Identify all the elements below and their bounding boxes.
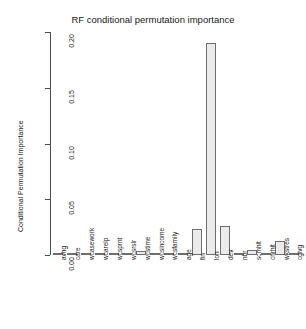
- x-tick-label: wcsrslr: [130, 240, 137, 260]
- x-tick-label: wkstres: [283, 238, 290, 260]
- x-tick-label: wcstime: [144, 237, 151, 260]
- x-tick-label: wcsprnt: [116, 238, 123, 260]
- x-tick-label: dev: [227, 250, 234, 260]
- y-tick-mark: [45, 88, 50, 89]
- x-tick-label: chrhlt: [269, 244, 276, 260]
- bar: [206, 43, 216, 255]
- y-tick-mark: [45, 32, 50, 33]
- x-tick-label: care: [74, 247, 81, 260]
- y-tick-mark: [45, 199, 50, 200]
- x-tick-label: wcsincome: [158, 228, 165, 260]
- y-axis-label: Conditional Permutation Importance: [17, 120, 24, 232]
- x-tick-label: wcasework: [88, 228, 95, 260]
- x-tick-label: fin: [199, 253, 206, 260]
- bar: [192, 229, 202, 255]
- x-tick-label: wcarelp: [102, 238, 109, 260]
- x-tick-label: cgivg: [296, 245, 303, 260]
- x-tick-label: scmhlt: [255, 241, 262, 260]
- bar-series: [51, 32, 301, 255]
- x-tick-label: avhg: [60, 246, 67, 260]
- y-tick-mark: [45, 144, 50, 145]
- chart-canvas: RF conditional permutation importance Co…: [0, 0, 306, 329]
- x-tick-label: lon: [213, 251, 220, 260]
- x-tick-label: wcsfamily: [171, 232, 178, 260]
- x-tick-label: age: [185, 249, 192, 260]
- chart-title: RF conditional permutation importance: [0, 14, 306, 25]
- y-tick-mark: [45, 255, 50, 256]
- x-axis-tick-labels: avhgcarewcaseworkwcarelpwcsprntwcsrslrwc…: [51, 258, 301, 328]
- x-tick-label: nbr: [241, 251, 248, 260]
